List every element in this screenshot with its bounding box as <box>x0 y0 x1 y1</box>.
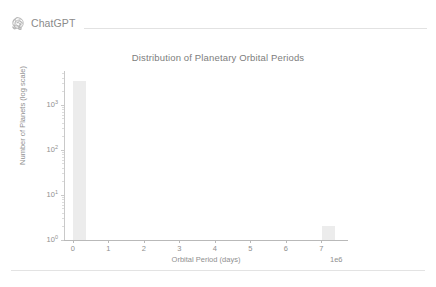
y-tick-minor <box>62 83 64 84</box>
x-tick-label: 1 <box>98 244 118 253</box>
plot-area <box>64 71 348 240</box>
brand-name: ChatGPT <box>31 16 75 30</box>
y-tick-mark <box>61 240 64 241</box>
y-tick-minor <box>62 173 64 174</box>
chatgpt-logo-icon <box>11 16 25 30</box>
y-tick-minor <box>62 208 64 209</box>
x-tick-mark <box>321 240 322 243</box>
y-tick-minor <box>62 109 64 110</box>
x-tick-mark <box>108 240 109 243</box>
chart-figure: Distribution of Planetary Orbital Period… <box>0 41 436 270</box>
document-header: ChatGPT <box>0 0 436 41</box>
y-tick-minor <box>62 197 64 198</box>
y-tick-mark <box>61 105 64 106</box>
y-tick-minor <box>62 78 64 79</box>
x-tick-label: 6 <box>276 244 296 253</box>
y-tick-minor <box>62 218 64 219</box>
y-tick-label: 101 <box>34 191 58 199</box>
x-axis-label: Orbital Period (days) <box>64 255 348 264</box>
y-tick-minor <box>62 226 64 227</box>
y-tick-minor <box>62 118 64 119</box>
y-tick-minor <box>62 154 64 155</box>
y-axis-line <box>64 71 65 240</box>
x-tick-label: 0 <box>63 244 83 253</box>
x-tick-label: 5 <box>240 244 260 253</box>
x-tick-mark <box>250 240 251 243</box>
y-tick-minor <box>62 181 64 182</box>
header-divider <box>84 28 427 29</box>
y-tick-label: 102 <box>34 146 58 154</box>
y-tick-minor <box>62 91 64 92</box>
x-tick-mark <box>286 240 287 243</box>
y-tick-minor <box>62 115 64 116</box>
y-tick-label: 103 <box>34 101 58 109</box>
y-tick-minor <box>62 112 64 113</box>
y-tick-minor <box>62 123 64 124</box>
y-tick-minor <box>62 157 64 158</box>
y-tick-minor <box>62 202 64 203</box>
x-tick-label: 2 <box>134 244 154 253</box>
y-tick-minor <box>62 136 64 137</box>
x-tick-label: 4 <box>205 244 225 253</box>
x-tick-mark <box>144 240 145 243</box>
histogram-bar <box>322 226 335 240</box>
histogram-bar <box>73 81 86 240</box>
footer-divider <box>11 270 425 271</box>
y-axis-label: Number of Planets (log scale) <box>18 61 27 171</box>
y-tick-minor <box>62 128 64 129</box>
x-tick-label: 7 <box>311 244 331 253</box>
x-axis-offset-text: 1e6 <box>330 255 343 264</box>
y-tick-minor <box>62 107 64 108</box>
y-tick-minor <box>62 152 64 153</box>
x-tick-mark <box>73 240 74 243</box>
chart-title: Distribution of Planetary Orbital Period… <box>0 52 436 63</box>
y-tick-minor <box>62 199 64 200</box>
y-tick-minor <box>62 160 64 161</box>
y-tick-mark <box>61 195 64 196</box>
brand: ChatGPT <box>11 16 75 30</box>
y-tick-minor <box>62 73 64 74</box>
y-tick-minor <box>62 168 64 169</box>
x-tick-mark <box>179 240 180 243</box>
y-tick-minor <box>62 205 64 206</box>
y-tick-mark <box>61 150 64 151</box>
y-tick-label: 100 <box>34 236 58 244</box>
x-tick-label: 3 <box>169 244 189 253</box>
y-tick-minor <box>62 213 64 214</box>
x-tick-mark <box>215 240 216 243</box>
y-tick-minor <box>62 163 64 164</box>
x-axis-line <box>64 240 348 241</box>
